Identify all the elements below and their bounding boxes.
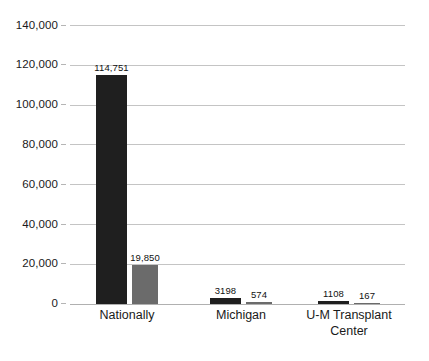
bar-um-transplant-center-series-b[interactable] bbox=[354, 303, 380, 304]
x-axis-category-labels: Nationally Michigan U-M Transplant Cente… bbox=[70, 307, 405, 359]
y-tick-label: 20,000 bbox=[0, 258, 58, 270]
category-label-um-transplant-center: U-M Transplant Center bbox=[294, 307, 404, 339]
y-tick-label: 120,000 bbox=[0, 59, 58, 71]
bar-value-label: 574 bbox=[229, 290, 289, 300]
y-tick-label: 40,000 bbox=[0, 219, 58, 231]
y-tick-mark bbox=[61, 303, 66, 304]
y-tick-mark bbox=[61, 25, 66, 26]
bar-um-transplant-center-series-a[interactable] bbox=[318, 301, 349, 305]
y-tick-label: 80,000 bbox=[0, 139, 58, 151]
y-tick-mark bbox=[61, 104, 66, 105]
plot-area: 114,751 19,850 3198 574 1108 167 bbox=[70, 25, 405, 304]
y-axis: 140,000 120,000 100,000 80,000 60,000 40… bbox=[0, 0, 66, 361]
bar-value-label: 167 bbox=[337, 291, 397, 301]
category-label-michigan: Michigan bbox=[186, 307, 296, 323]
bar-value-label: 19,850 bbox=[115, 253, 175, 263]
y-tick-label: 60,000 bbox=[0, 179, 58, 191]
category-label-nationally: Nationally bbox=[72, 307, 182, 323]
bar-value-label: 114,751 bbox=[81, 63, 142, 73]
x-axis-line bbox=[70, 304, 405, 305]
bar-nationally-series-a[interactable] bbox=[96, 75, 127, 304]
y-tick-mark bbox=[61, 263, 66, 264]
y-tick-text: 60,000 bbox=[22, 178, 58, 190]
y-tick-mark bbox=[61, 144, 66, 145]
y-tick-mark bbox=[61, 224, 66, 225]
y-tick-text: 140,000 bbox=[16, 19, 58, 31]
bar-michigan-series-b[interactable] bbox=[246, 302, 272, 305]
y-tick-mark bbox=[61, 64, 66, 65]
y-tick-label: 0 bbox=[0, 298, 58, 310]
y-tick-label: 140,000 bbox=[0, 20, 58, 32]
y-tick-text: 40,000 bbox=[22, 218, 58, 230]
y-tick-text: 100,000 bbox=[16, 98, 58, 110]
y-tick-text: 20,000 bbox=[22, 257, 58, 269]
bar-chart: 140,000 120,000 100,000 80,000 60,000 40… bbox=[0, 0, 429, 361]
y-tick-text: 80,000 bbox=[22, 138, 58, 150]
y-tick-text: 0 bbox=[52, 297, 59, 309]
y-tick-mark bbox=[61, 184, 66, 185]
bars-layer: 114,751 19,850 3198 574 1108 167 bbox=[70, 25, 405, 304]
y-tick-label: 100,000 bbox=[0, 99, 58, 111]
y-tick-text: 120,000 bbox=[16, 58, 58, 70]
bar-nationally-series-b[interactable] bbox=[132, 265, 158, 305]
